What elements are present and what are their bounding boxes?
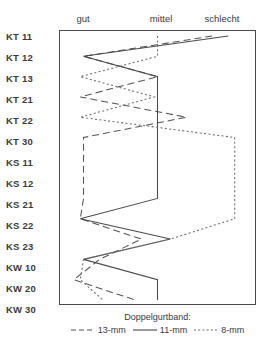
legend-label-11mm: 11-mm xyxy=(160,325,187,335)
legend-swatch-dashed xyxy=(71,326,95,334)
row-label-ks-12: KS 12 xyxy=(6,179,56,189)
row-label-kt-21: KT 21 xyxy=(6,95,56,105)
legend-item-13mm: 13-mm xyxy=(71,325,126,335)
column-label-gut: gut xyxy=(62,14,104,24)
plot-frame xyxy=(59,30,256,305)
row-label-kw-10: KW 10 xyxy=(6,263,56,273)
row-label-ks-21: KS 21 xyxy=(6,200,56,210)
legend-swatch-dotted xyxy=(194,326,218,334)
row-label-kt-30: KT 30 xyxy=(6,137,56,147)
legend-label-13mm: 13-mm xyxy=(98,325,126,335)
row-label-kt-13: KT 13 xyxy=(6,74,56,84)
profile-chart: gut mittel schlecht KT 11 KT 12 KT 13 KT… xyxy=(0,0,274,350)
legend-item-8mm: 8-mm xyxy=(194,325,244,335)
legend-label-8mm: 8-mm xyxy=(221,325,244,335)
legend-swatch-solid xyxy=(133,326,157,334)
column-label-schlecht: schlecht xyxy=(194,14,250,24)
row-label-kt-12: KT 12 xyxy=(6,53,56,63)
legend-items: 13-mm 11-mm 8-mm xyxy=(59,325,256,335)
row-label-kw-30: KW 30 xyxy=(6,305,56,315)
column-label-mittel: mittel xyxy=(140,14,182,24)
row-label-ks-11: KS 11 xyxy=(6,158,56,168)
row-label-ks-23: KS 23 xyxy=(6,242,56,252)
row-label-ks-22: KS 22 xyxy=(6,221,56,231)
row-label-kw-20: KW 20 xyxy=(6,284,56,294)
legend-title: Doppelgurtband: xyxy=(59,312,256,323)
row-label-kt-11: KT 11 xyxy=(6,32,56,42)
legend: Doppelgurtband: 13-mm 11-mm 8-mm xyxy=(59,312,256,335)
row-label-kt-22: KT 22 xyxy=(6,116,56,126)
legend-item-11mm: 11-mm xyxy=(133,325,187,335)
